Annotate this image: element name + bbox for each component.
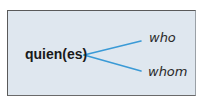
- connector-to-who: [84, 41, 141, 55]
- source-word: quien(es): [25, 46, 87, 62]
- diagram-canvas: quien(es) who whom: [0, 0, 204, 105]
- target-word-whom: whom: [148, 64, 188, 79]
- target-word-who: who: [149, 30, 176, 45]
- connector-to-whom: [84, 55, 141, 71]
